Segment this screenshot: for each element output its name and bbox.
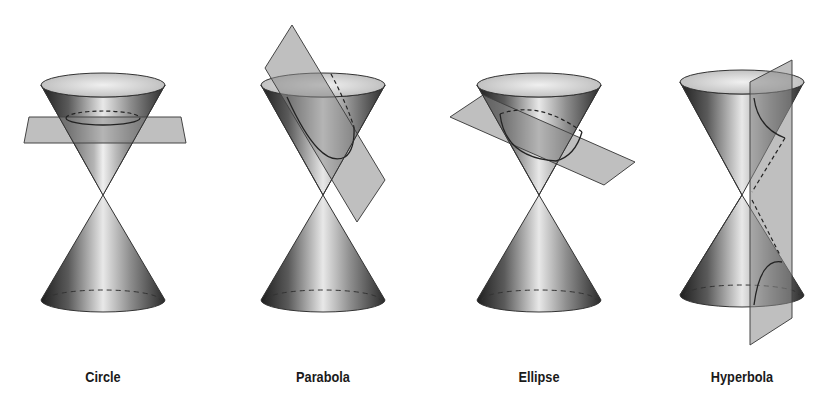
top-opening [477,73,601,97]
label-hyperbola: Hyperbola [711,368,773,385]
label-circle: Circle [85,368,120,385]
cutting-plane [750,60,792,345]
conic-sections-diagram [0,0,839,419]
circle-panel [24,73,186,312]
hyperbola-panel [680,60,804,345]
cutting-plane [24,117,186,143]
label-parabola: Parabola [296,368,350,385]
top-opening [41,73,165,97]
lower-nappe [477,195,601,312]
label-ellipse: Ellipse [518,368,559,385]
parabola-panel [261,25,385,312]
ellipse-panel [450,73,635,312]
lower-nappe [261,195,385,312]
lower-nappe [41,195,165,312]
